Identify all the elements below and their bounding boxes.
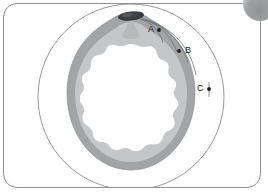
annotation-label-a: A (148, 25, 154, 34)
annotation-label-c: C (197, 84, 204, 93)
annotation-dot-a[interactable] (157, 28, 161, 32)
ring-cross-section-diagram (0, 0, 268, 193)
figure-stage: A B C (0, 0, 268, 193)
annotation-dot-b[interactable] (177, 49, 181, 53)
annotation-dot-c[interactable] (207, 87, 211, 91)
annotation-label-b: B (185, 46, 191, 55)
